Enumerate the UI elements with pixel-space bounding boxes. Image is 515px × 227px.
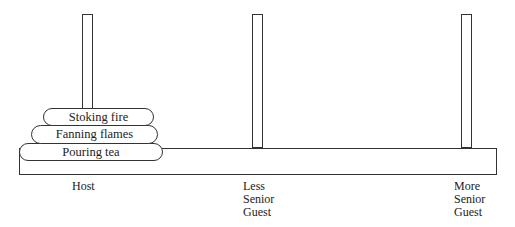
label-line: Guest <box>243 206 274 219</box>
disc-fanning-flames: Fanning flames <box>31 125 158 144</box>
disc-pouring-tea: Pouring tea <box>19 143 163 161</box>
label-line: Guest <box>454 206 485 219</box>
label-host: Host <box>72 180 95 193</box>
label-more-senior-guest: More Senior Guest <box>454 180 485 219</box>
label-less-senior-guest: Less Senior Guest <box>243 180 274 219</box>
peg-less-senior-guest <box>252 14 263 148</box>
disc-stoking-fire: Stoking fire <box>43 108 154 126</box>
peg-more-senior-guest <box>461 14 472 148</box>
